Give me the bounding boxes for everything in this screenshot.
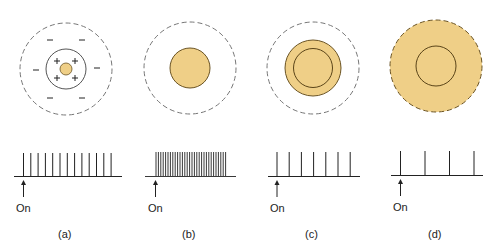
panel-c: On (c)	[267, 22, 360, 240]
panel-caption: (d)	[428, 228, 441, 240]
panel-a: On (a)	[14, 23, 122, 240]
light-spot	[60, 63, 72, 75]
spike-train	[145, 152, 236, 177]
panel-b: On (b)	[144, 22, 236, 240]
on-arrow-icon	[153, 180, 158, 197]
on-arrow-icon	[398, 179, 403, 196]
on-label: On	[16, 202, 31, 214]
spike-train	[14, 153, 122, 177]
panel-caption: (c)	[305, 228, 318, 240]
panel-caption: (a)	[58, 228, 71, 240]
on-arrow-icon	[21, 180, 26, 197]
panel-d: On (d)	[390, 20, 483, 240]
light-spot	[170, 48, 210, 88]
light-spot	[390, 20, 482, 112]
spike-train	[268, 152, 360, 177]
on-arrow-icon	[275, 180, 280, 197]
spike-train	[391, 151, 483, 176]
on-label: On	[148, 202, 163, 214]
on-label: On	[270, 202, 285, 214]
panel-caption: (b)	[182, 228, 195, 240]
on-label: On	[393, 201, 408, 213]
receptive-field-diagram: On (a)	[0, 0, 495, 249]
